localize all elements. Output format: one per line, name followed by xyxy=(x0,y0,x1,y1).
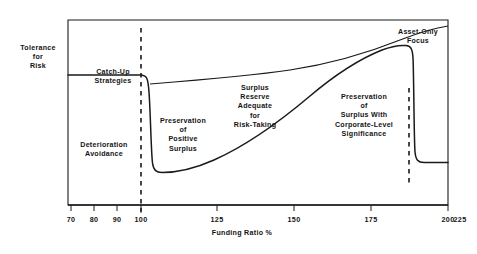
x-tick-label-175: 175 xyxy=(365,215,378,224)
annotation-preservation-of-positive-surplus: Preservation of Positive Surplus xyxy=(148,117,218,154)
x-tick-label-100: 100 xyxy=(135,215,148,224)
x-tick-label-150: 150 xyxy=(288,215,301,224)
x-axis-ticks xyxy=(71,205,448,211)
annotation-surplus-reserve-adequate: Surplus Reserve Adequate for Risk-Taking xyxy=(216,84,294,130)
x-tick-label-125: 125 xyxy=(211,215,224,224)
x-tick-label-80: 80 xyxy=(90,215,99,224)
x-axis-label: Funding Ratio % xyxy=(190,229,294,238)
annotation-asset-only-focus: Asset-Only Focus xyxy=(384,28,452,46)
annotation-catch-up-strategies: Catch-Up Strategies xyxy=(76,68,150,86)
x-tick-label-225: 225 xyxy=(454,215,467,224)
annotation-preservation-corporate-level: Preservation of Surplus With Corporate-L… xyxy=(322,93,406,139)
annotation-deterioration-avoidance: Deterioration Avoidance xyxy=(60,141,148,159)
x-tick-label-200: 200 xyxy=(442,215,455,224)
y-axis-label: Tolerance for Risk xyxy=(10,44,66,72)
risk-tolerance-chart: Tolerance for Risk Funding Ratio % 70 80… xyxy=(0,0,477,254)
x-tick-label-70: 70 xyxy=(67,215,76,224)
x-tick-label-90: 90 xyxy=(113,215,122,224)
